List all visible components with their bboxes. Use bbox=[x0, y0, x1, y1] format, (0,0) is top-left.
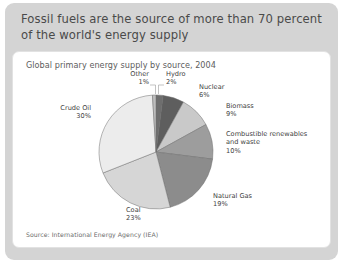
figure-panel: Fossil fuels are the source of more than… bbox=[5, 3, 338, 260]
pie-label-natural-gas: Natural Gas19% bbox=[213, 192, 253, 208]
pie-label-biomass: Biomass9% bbox=[226, 102, 254, 118]
pie-label-combustible-renewables: Combustible renewablesand waste10% bbox=[226, 130, 308, 155]
pie-label-crude-oil: Crude Oil30% bbox=[60, 104, 91, 120]
source-note: Source: International Energy Agency (IEA… bbox=[26, 231, 158, 238]
header-title: Fossil fuels are the source of more than… bbox=[21, 12, 322, 43]
pie-label-hydro: Hydro2% bbox=[166, 70, 186, 86]
chart-card: Global primary energy supply by source, … bbox=[12, 51, 331, 248]
pie-label-coal: Coal23% bbox=[126, 206, 141, 222]
pie-label-nuclear: Nuclear6% bbox=[199, 83, 225, 99]
leader-line-hydro bbox=[159, 85, 165, 94]
figure-header: Fossil fuels are the source of more than… bbox=[5, 3, 338, 50]
pie-label-other: Other1% bbox=[130, 70, 149, 86]
pie-chart: Hydro2%Nuclear6%Biomass9%Combustible ren… bbox=[13, 70, 331, 230]
pie-chart-svg: Hydro2%Nuclear6%Biomass9%Combustible ren… bbox=[13, 70, 331, 230]
chart-title: Global primary energy supply by source, … bbox=[26, 60, 216, 70]
leader-line-other bbox=[150, 85, 156, 94]
